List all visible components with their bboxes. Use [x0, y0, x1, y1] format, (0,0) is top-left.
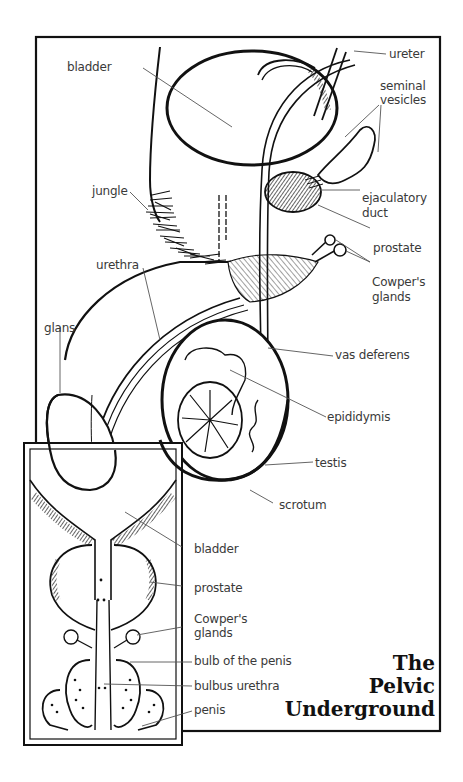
label-testis: testis: [315, 457, 346, 470]
title-line-2: Pelvic: [285, 675, 435, 698]
label-glans: glans: [44, 322, 75, 335]
label-scrotum: scrotum: [279, 499, 326, 512]
label-cowpers-glands-line1: Cowper's: [372, 276, 425, 289]
inset-label-bladder: bladder: [194, 543, 238, 556]
bladder: [167, 51, 337, 165]
label-epididymis: epididymis: [327, 411, 390, 424]
inset-label-penis: penis: [194, 704, 225, 717]
label-ureter: ureter: [389, 48, 424, 61]
title-line-1: The: [285, 652, 435, 675]
pubic-hair: [146, 191, 231, 264]
cowpers-glands: [312, 235, 346, 262]
label-vas-deferens: vas deferens: [335, 349, 410, 362]
penile-bulb: [228, 255, 318, 302]
label-bladder: bladder: [67, 61, 111, 74]
inset-label-bulb-of-penis: bulb of the penis: [194, 655, 292, 668]
prostate: [265, 172, 321, 212]
title-line-3: Underground: [285, 698, 435, 721]
label-prostate: prostate: [373, 242, 421, 255]
label-ejaculatory-duct-line2: duct: [362, 207, 388, 220]
inset-label-prostate: prostate: [194, 582, 242, 595]
label-seminal-vesicles-line2: vesicles: [380, 94, 426, 107]
label-cowpers-glands-line2: glands: [372, 291, 411, 304]
pelvic-anatomy-illustration: bladder ureter seminal vesicles jungle e…: [0, 0, 463, 782]
inset-label-cowpers-line1: Cowper's: [194, 613, 247, 626]
inset-frame: [24, 443, 182, 745]
label-seminal-vesicles-line1: seminal: [380, 80, 426, 93]
label-jungle: jungle: [92, 185, 128, 198]
label-urethra: urethra: [96, 259, 139, 272]
inset-label-bulbus-urethra: bulbus urethra: [194, 680, 279, 693]
label-ejaculatory-duct-line1: ejaculatory: [362, 192, 427, 205]
inset-label-cowpers-line2: glands: [194, 627, 233, 640]
diagram-title: The Pelvic Underground: [285, 652, 435, 721]
